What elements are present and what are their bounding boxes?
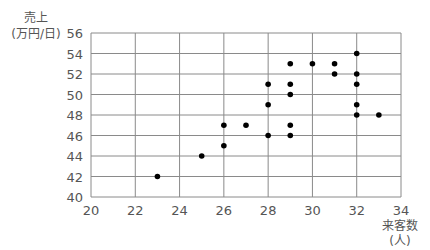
data-point	[287, 122, 293, 128]
data-point	[354, 112, 360, 118]
y-tick-label: 56	[66, 26, 83, 41]
x-axis-title: 来客数	[382, 218, 418, 233]
data-point	[354, 51, 360, 57]
data-point	[265, 133, 271, 139]
x-tick-label: 30	[304, 203, 321, 218]
data-point	[354, 81, 360, 87]
data-point	[287, 61, 293, 67]
x-tick-label: 28	[260, 203, 277, 218]
data-point	[310, 61, 316, 67]
y-axis-ticks: 404244464850525456	[66, 26, 83, 205]
data-point	[332, 61, 338, 67]
y-tick-label: 42	[66, 170, 83, 185]
y-tick-label: 40	[66, 190, 83, 205]
y-axis-title: 売上	[24, 10, 48, 25]
data-point	[155, 174, 161, 180]
data-point	[354, 71, 360, 77]
data-point	[376, 112, 382, 118]
data-point	[287, 81, 293, 87]
data-point	[199, 153, 205, 159]
scatter-chart: 404244464850525456 2022242628303234 売上 (…	[0, 0, 430, 250]
data-point	[221, 122, 227, 128]
y-tick-label: 52	[66, 67, 83, 82]
data-point	[287, 133, 293, 139]
x-axis-unit: (人)	[389, 234, 410, 248]
y-tick-label: 44	[66, 149, 83, 164]
data-point	[265, 81, 271, 87]
x-tick-label: 34	[393, 203, 410, 218]
x-tick-label: 32	[348, 203, 365, 218]
y-tick-label: 48	[66, 108, 83, 123]
y-tick-label: 50	[66, 88, 83, 103]
x-axis-ticks: 2022242628303234	[83, 203, 410, 218]
y-axis-unit: (万円/日)	[11, 27, 60, 41]
data-point	[287, 92, 293, 98]
data-point	[265, 102, 271, 108]
data-point	[221, 143, 227, 149]
y-tick-label: 54	[66, 47, 83, 62]
x-tick-label: 20	[83, 203, 100, 218]
data-point	[243, 122, 249, 128]
x-tick-label: 24	[171, 203, 188, 218]
y-tick-label: 46	[66, 129, 83, 144]
data-point	[354, 102, 360, 108]
x-tick-label: 26	[216, 203, 233, 218]
x-tick-label: 22	[127, 203, 144, 218]
data-point	[332, 71, 338, 77]
